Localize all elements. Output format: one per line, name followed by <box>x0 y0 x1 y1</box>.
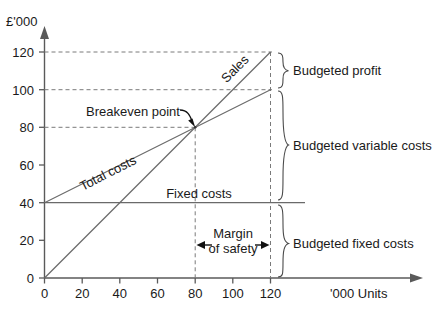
series-label-fixed-costs: Fixed costs <box>166 186 232 201</box>
x-tick-label-60: 60 <box>150 286 164 301</box>
y-tick-label-60: 60 <box>20 158 34 173</box>
x-axis-title: '000 Units <box>330 286 388 301</box>
brackets-group: Budgeted profit Budgeted variable costs … <box>278 53 432 277</box>
y-axis-title: £'000 <box>6 14 37 29</box>
x-axis-arrowhead <box>410 274 423 283</box>
breakeven-chart-figure: 0 20 40 60 80 100 120 0 20 40 60 80 100 … <box>0 0 441 310</box>
x-tick-label-40: 40 <box>113 286 127 301</box>
y-axis-arrowhead <box>40 26 49 39</box>
chart-canvas: 0 20 40 60 80 100 120 0 20 40 60 80 100 … <box>0 0 441 310</box>
x-tick-label-120: 120 <box>260 286 282 301</box>
bracket-budgeted-fixed-costs <box>278 205 289 277</box>
bracket-label-budgeted-profit: Budgeted profit <box>293 63 382 78</box>
y-axis-ticks: 0 20 40 60 80 100 120 <box>12 45 44 286</box>
y-tick-label-100: 100 <box>12 83 34 98</box>
margin-of-safety-label-line1: Margin <box>213 226 253 241</box>
breakeven-annotation-group: Breakeven point <box>86 104 197 129</box>
bracket-label-budgeted-fixed-costs: Budgeted fixed costs <box>293 236 414 251</box>
x-tick-label-80: 80 <box>188 286 202 301</box>
breakeven-point-label: Breakeven point <box>86 104 180 119</box>
margin-of-safety-group: Margin of safety <box>197 226 270 256</box>
x-tick-label-0: 0 <box>41 286 48 301</box>
y-tick-label-0: 0 <box>27 271 34 286</box>
y-tick-label-20: 20 <box>20 233 34 248</box>
bracket-budgeted-profit <box>278 53 289 88</box>
bracket-label-budgeted-variable-costs: Budgeted variable costs <box>293 138 432 153</box>
x-axis-ticks: 0 20 40 60 80 100 120 <box>41 278 281 301</box>
margin-of-safety-arrow-left-head <box>197 241 206 249</box>
y-tick-label-80: 80 <box>20 120 34 135</box>
series-label-sales: Sales <box>218 52 252 86</box>
y-tick-label-40: 40 <box>20 196 34 211</box>
bracket-budgeted-variable-costs <box>278 91 289 200</box>
y-tick-label-120: 120 <box>12 45 34 60</box>
margin-of-safety-arrow-right-head <box>261 241 270 249</box>
margin-of-safety-label-line2: of safety <box>208 241 258 256</box>
breakeven-arrow-head <box>188 118 195 127</box>
x-tick-label-20: 20 <box>75 286 89 301</box>
x-tick-label-100: 100 <box>222 286 244 301</box>
series-label-total-costs: Total costs <box>77 152 139 193</box>
breakeven-point-marker <box>194 126 197 129</box>
